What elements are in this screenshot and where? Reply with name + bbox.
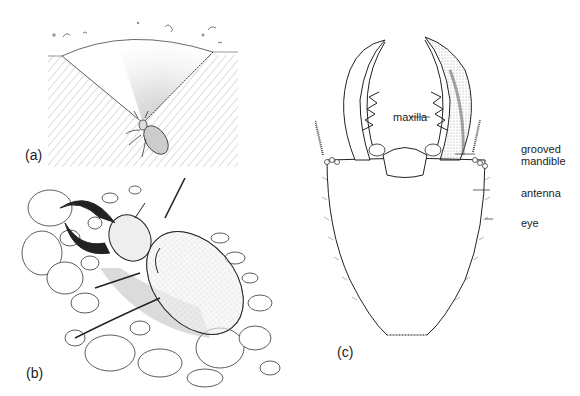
larval-head-illustration [315, 30, 495, 370]
panel-label-b: (b) [26, 365, 43, 381]
callout-mandible: mandible [521, 155, 566, 167]
larva-in-gravel-illustration [20, 178, 285, 388]
head-capsule [327, 158, 485, 335]
callout-eye: eye [521, 217, 539, 229]
callout-grooved: grooved [521, 143, 561, 155]
panel-a [48, 15, 243, 167]
callout-maxilla: maxilla [393, 111, 427, 123]
callout-antenna: antenna [521, 187, 561, 199]
panel-label-c: (c) [337, 344, 353, 360]
panel-b [20, 178, 285, 388]
panel-c [315, 30, 495, 370]
panel-label-a: (a) [25, 147, 42, 163]
sand-pit-illustration [48, 15, 243, 167]
